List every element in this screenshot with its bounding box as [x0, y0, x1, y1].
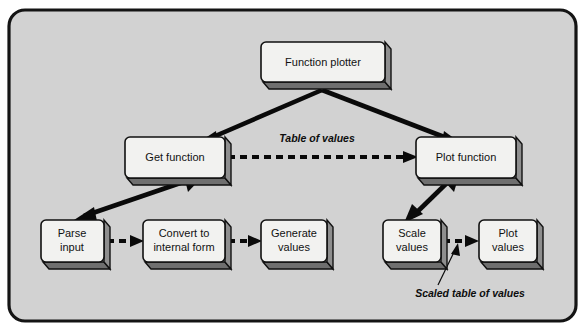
node-label-plot-function: Plot function — [436, 151, 497, 163]
node-parse-input[interactable]: Parse input — [41, 220, 110, 269]
node-label-plot-values-line2: values — [492, 241, 524, 253]
node-convert-internal[interactable]: Convert to internal form — [143, 220, 231, 269]
node-label-scale-values-line1: Scale — [398, 227, 426, 239]
box-bottom-face — [385, 262, 447, 269]
node-label-plot-values-line1: Plot — [499, 227, 518, 239]
node-label-function-plotter: Function plotter — [285, 56, 361, 68]
node-plot-values[interactable]: Plot values — [479, 220, 543, 269]
node-generate-values[interactable]: Generate values — [261, 220, 333, 269]
node-label-generate-values-line1: Generate — [271, 227, 317, 239]
function-plotter-diagram: Table of values Scaled table of values — [0, 0, 585, 330]
edge-label-table-of-values: Table of values — [279, 132, 355, 144]
box-right-face — [516, 137, 522, 185]
node-label-generate-values-line2: values — [278, 241, 310, 253]
node-label-parse-input-line2: input — [60, 241, 84, 253]
box-right-face — [441, 220, 447, 269]
node-function-plotter[interactable]: Function plotter — [261, 42, 391, 89]
node-scale-values[interactable]: Scale values — [383, 220, 447, 269]
box-bottom-face — [263, 262, 333, 269]
box-bottom-face — [263, 82, 391, 89]
node-label-convert-internal-line2: internal form — [153, 241, 214, 253]
node-label-convert-internal-line1: Convert to — [159, 227, 210, 239]
node-label-get-function: Get function — [145, 151, 204, 163]
box-right-face — [225, 137, 231, 185]
node-label-scale-values-line2: values — [396, 241, 428, 253]
box-bottom-face — [145, 262, 231, 269]
node-plot-function[interactable]: Plot function — [416, 137, 522, 185]
box-bottom-face — [418, 178, 522, 185]
box-right-face — [537, 220, 543, 269]
box-bottom-face — [481, 262, 543, 269]
edge-label-scaled-table-of-values: Scaled table of values — [415, 287, 525, 299]
box-right-face — [385, 42, 391, 89]
box-right-face — [104, 220, 110, 269]
diagram-container: Table of values Scaled table of values — [0, 0, 585, 330]
node-get-function[interactable]: Get function — [125, 137, 231, 185]
box-right-face — [327, 220, 333, 269]
box-bottom-face — [127, 178, 231, 185]
box-right-face — [225, 220, 231, 269]
box-bottom-face — [43, 262, 110, 269]
node-label-parse-input-line1: Parse — [58, 227, 87, 239]
